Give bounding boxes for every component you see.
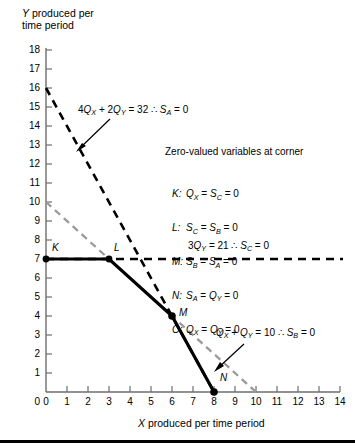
y-tick-2: 2 — [24, 348, 40, 359]
y-tick-18: 18 — [24, 44, 40, 55]
y-tick-14: 14 — [24, 120, 40, 131]
y-tick-8: 8 — [24, 234, 40, 245]
corner-point-l — [106, 256, 113, 263]
y-tick-3: 3 — [24, 329, 40, 340]
legend-row-l: L:SC = SB = 0 — [172, 222, 240, 234]
y-tick-13: 13 — [24, 139, 40, 150]
x-tick-8: 8 — [206, 396, 222, 407]
x-tick-3: 3 — [101, 396, 117, 407]
legend-box-rows: K:QX = SC = 0 L:SC = SB = 0 M:SB = SA = … — [172, 166, 240, 347]
y-axis-label-symbol: Y — [22, 7, 29, 19]
point-label-l: L — [114, 242, 120, 253]
point-label-n: N — [220, 372, 227, 383]
x-tick-6: 6 — [164, 396, 180, 407]
bottom-rule — [0, 440, 355, 443]
point-label-k: K — [52, 242, 59, 253]
x-tick-4: 4 — [122, 396, 138, 407]
x-tick-5: 5 — [143, 396, 159, 407]
x-tick-13: 13 — [311, 396, 327, 407]
y-tick-16: 16 — [24, 82, 40, 93]
y-tick-12: 12 — [24, 158, 40, 169]
x-tick-11: 11 — [269, 396, 285, 407]
y-tick-5: 5 — [24, 291, 40, 302]
x-tick-10: 10 — [248, 396, 264, 407]
y-tick-6: 6 — [24, 272, 40, 283]
y-axis-label-line2: time period — [22, 19, 74, 31]
legend-row-n: N:SA = QY = 0 — [172, 290, 240, 302]
x-tick-14: 14 — [332, 396, 348, 407]
x-tick-0: 0 — [38, 396, 54, 407]
y-tick-17: 17 — [24, 63, 40, 74]
x-axis-label: X produced per time period — [138, 418, 265, 430]
x-axis-label-rest: produced per time period — [145, 417, 265, 429]
x-tick-12: 12 — [290, 396, 306, 407]
constraint-a-label: 4QX + 2QY = 32 ∴ SA = 0 — [78, 104, 188, 115]
y-axis-label: Y produced per time period — [22, 8, 94, 32]
y-tick-9: 9 — [24, 215, 40, 226]
y-tick-7: 7 — [24, 253, 40, 264]
x-axis-label-symbol: X — [138, 417, 145, 429]
corner-point-k — [43, 256, 50, 263]
y-axis-ticks — [46, 50, 52, 373]
x-axis-ticks — [67, 386, 340, 392]
y-tick-15: 15 — [24, 101, 40, 112]
y-tick-11: 11 — [24, 177, 40, 188]
point-label-m: M — [179, 307, 187, 318]
legend-box-title: Zero-valued variables at corner — [165, 146, 303, 157]
legend-row-m: M:SB = SA = 0 — [172, 256, 240, 268]
y-tick-10: 10 — [24, 196, 40, 207]
x-tick-7: 7 — [185, 396, 201, 407]
corner-point-n — [210, 388, 218, 396]
arrow-constraint-a — [80, 119, 110, 148]
y-axis-label-line1: produced per — [29, 7, 94, 19]
y-tick-4: 4 — [24, 310, 40, 321]
x-tick-9: 9 — [227, 396, 243, 407]
y-tick-1: 1 — [24, 367, 40, 378]
legend-row-k: K:QX = SC = 0 — [172, 188, 240, 200]
x-tick-2: 2 — [80, 396, 96, 407]
legend-row-o: O:QX = QY = 0 — [172, 324, 240, 336]
x-tick-1: 1 — [59, 396, 75, 407]
